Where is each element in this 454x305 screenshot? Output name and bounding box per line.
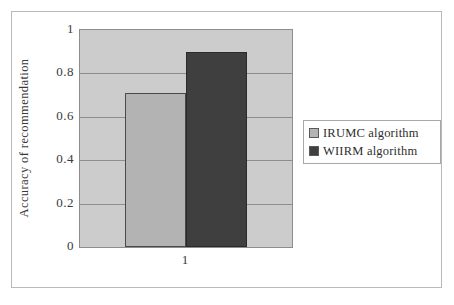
legend-swatch-icon <box>309 146 319 156</box>
plot-area <box>79 29 293 248</box>
y-tick-label: 0.6 <box>36 108 74 124</box>
y-axis-title: Accuracy of recommendation <box>13 29 35 247</box>
y-tick-label: 0.4 <box>36 151 74 167</box>
bar <box>186 52 247 247</box>
bar-group <box>80 30 292 247</box>
y-tick-label: 1 <box>36 21 74 37</box>
x-tick-label: 1 <box>182 252 189 268</box>
legend-item-label: IRUMC algorithm <box>323 126 419 141</box>
chart-figure: Accuracy of recommendation 1 0.8 0.6 0.4… <box>0 0 454 305</box>
legend-item: WIIRM algorithm <box>309 142 436 160</box>
legend-item: IRUMC algorithm <box>309 124 436 142</box>
bar <box>125 93 186 247</box>
y-tick-label: 0.8 <box>36 64 74 80</box>
y-axis-tick-labels: 1 0.8 0.6 0.4 0.2 0 <box>33 29 74 246</box>
legend-item-label: WIIRM algorithm <box>323 144 417 159</box>
y-tick-label: 0.2 <box>36 195 74 211</box>
chart-legend: IRUMC algorithm WIIRM algorithm <box>303 120 441 164</box>
legend-swatch-icon <box>309 128 319 138</box>
y-tick-label: 0 <box>36 238 74 254</box>
x-axis-tick-labels: 1 <box>79 252 291 274</box>
